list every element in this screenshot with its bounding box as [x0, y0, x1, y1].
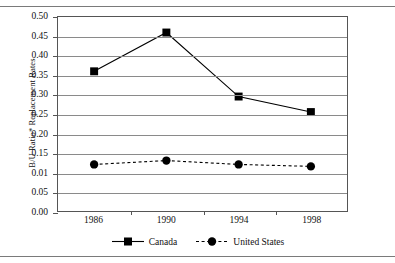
y-axis-tick — [53, 76, 58, 77]
gridline — [58, 174, 347, 175]
y-axis-tick-label: 0.01 — [31, 168, 48, 178]
y-axis-tick-label: 0.00 — [31, 207, 48, 217]
y-axis-tick-label: 0.15 — [31, 148, 48, 158]
y-axis-tick — [53, 193, 58, 194]
chart-legend: CanadaUnited States — [0, 236, 395, 247]
y-axis-tick — [53, 135, 58, 136]
y-axis-tick-label: 0.20 — [31, 129, 48, 139]
y-axis-tick-label: 0.50 — [31, 11, 48, 21]
gridline — [58, 95, 347, 96]
y-axis-tick-label: 0.05 — [31, 187, 48, 197]
series-line-united-states — [94, 161, 311, 167]
y-axis-tick — [53, 17, 58, 18]
y-axis-tick — [53, 154, 58, 155]
square-marker-icon — [111, 236, 145, 247]
figure-top-rule — [0, 6, 395, 7]
y-axis-tick-label: 0.40 — [31, 50, 48, 60]
gridline — [58, 193, 347, 194]
data-point-marker — [162, 29, 170, 37]
y-axis-tick-label: 0.35 — [31, 70, 48, 80]
x-axis-tick-label: 1998 — [302, 215, 321, 225]
data-point-marker — [235, 93, 243, 101]
figure-bottom-rule — [0, 256, 395, 257]
y-axis-tick — [53, 95, 58, 96]
y-axis-tick — [53, 37, 58, 38]
series-line-canada — [94, 33, 311, 113]
x-axis-tick-label: 1986 — [84, 215, 103, 225]
circle-marker-icon — [195, 236, 229, 247]
gridline — [58, 37, 347, 38]
gridline — [58, 115, 347, 116]
data-series-layer — [58, 17, 347, 211]
data-point-marker — [90, 67, 98, 75]
gridline — [58, 76, 347, 77]
y-axis-tick-label: 0.45 — [31, 31, 48, 41]
gridline — [58, 154, 347, 155]
x-axis-tick-label: 1994 — [229, 215, 248, 225]
x-axis-tick-label: 1990 — [157, 215, 176, 225]
y-axis-tick — [53, 115, 58, 116]
plot-area — [57, 16, 348, 212]
legend-label: United States — [233, 237, 284, 247]
data-point-marker — [234, 160, 242, 168]
y-axis-tick — [53, 56, 58, 57]
legend-entry-united-states[interactable]: United States — [195, 236, 284, 247]
y-axis-tick — [53, 174, 58, 175]
data-point-marker — [307, 162, 315, 170]
y-axis-tick-label: 0.25 — [31, 109, 48, 119]
y-axis-tick — [53, 213, 58, 214]
gridline — [58, 135, 347, 136]
legend-label: Canada — [149, 237, 178, 247]
legend-entry-canada[interactable]: Canada — [111, 236, 178, 247]
data-point-marker — [90, 160, 98, 168]
chart-figure: B/U Ratio* Replacement Rates 0.500.450.4… — [0, 0, 395, 263]
x-axis-tick-labels: 1986199019941998 — [57, 215, 348, 231]
y-axis-tick-label: 0.30 — [31, 89, 48, 99]
y-axis-tick-labels: 0.500.450.400.350.300.250.200.150.010.05… — [0, 16, 52, 212]
data-point-marker — [162, 156, 170, 164]
gridline — [58, 56, 347, 57]
